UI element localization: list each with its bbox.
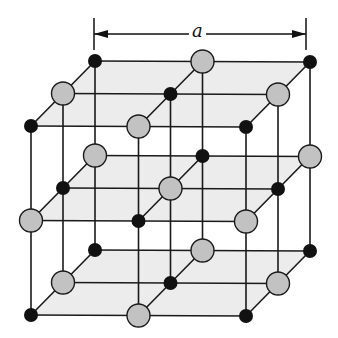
large-ion xyxy=(191,50,214,73)
small-ion xyxy=(24,308,38,322)
large-ion xyxy=(299,145,322,168)
small-ion xyxy=(196,149,210,163)
lattice-bond xyxy=(31,315,139,316)
crystal-lattice-diagram xyxy=(0,0,338,338)
lattice-bond xyxy=(139,127,247,128)
small-ion xyxy=(88,54,102,68)
lattice-bond xyxy=(63,283,171,284)
lattice-bond xyxy=(63,188,171,189)
small-ion xyxy=(271,182,285,196)
large-ion xyxy=(267,83,290,106)
large-ion xyxy=(159,177,182,200)
lattice-bond xyxy=(203,62,311,63)
small-ion xyxy=(24,119,38,133)
large-ion xyxy=(52,271,75,294)
large-ion xyxy=(191,239,214,262)
lattice-bond xyxy=(171,94,279,95)
lattice-bond xyxy=(203,251,311,252)
small-ion xyxy=(132,214,146,228)
lattice-bond xyxy=(171,189,279,190)
small-ion xyxy=(239,120,253,134)
small-ion xyxy=(56,181,70,195)
lattice-bond xyxy=(95,61,203,62)
large-ion xyxy=(84,144,107,167)
large-ion xyxy=(20,209,43,232)
large-ion xyxy=(127,304,150,327)
lattice-bond xyxy=(95,156,203,157)
lattice-bond xyxy=(139,316,247,317)
small-ion xyxy=(239,309,253,323)
lattice-bond xyxy=(171,283,279,284)
small-ion xyxy=(164,276,178,290)
large-ion xyxy=(267,272,290,295)
small-ion xyxy=(88,243,102,257)
small-ion xyxy=(164,87,178,101)
lattice-bond xyxy=(95,250,203,251)
lattice-atoms xyxy=(20,50,322,327)
large-ion xyxy=(127,115,150,138)
lattice-bond xyxy=(203,156,311,157)
lattice-bond xyxy=(63,94,171,95)
lattice-constant-label: a xyxy=(189,22,206,40)
small-ion xyxy=(303,244,317,258)
lattice-bond xyxy=(31,126,139,127)
large-ion xyxy=(235,210,258,233)
small-ion xyxy=(303,55,317,69)
large-ion xyxy=(52,82,75,105)
lattice-bond xyxy=(139,221,247,222)
lattice-bond xyxy=(31,221,139,222)
